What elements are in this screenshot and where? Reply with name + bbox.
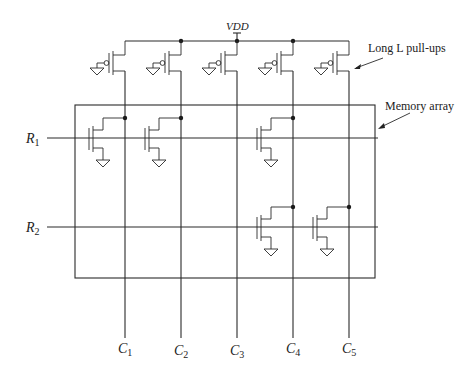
column-label-c4: C4 <box>286 341 300 358</box>
column-label-c3: C3 <box>230 343 244 360</box>
row1-cells <box>89 116 295 167</box>
column-lines <box>125 71 349 338</box>
cell-r1-c2 <box>145 116 183 167</box>
column-label-c5: C5 <box>342 341 356 358</box>
column-label-c1: C1 <box>118 341 132 358</box>
memory-array-schematic: VDD R1 R2 C1 C2 <box>0 0 473 372</box>
pullup-c3 <box>202 41 237 75</box>
pullup-c1 <box>90 41 125 75</box>
annotation-memory-array: Memory array <box>378 99 454 129</box>
pullup-transistors <box>90 41 349 75</box>
memory-array-arrow <box>381 113 410 127</box>
row-label-r1: R1 <box>25 131 40 148</box>
cell-r1-c4 <box>257 116 295 167</box>
row2-cells <box>257 205 351 256</box>
annotation-pullups: Long L pull-ups <box>354 41 446 69</box>
pullup-c5 <box>314 41 349 75</box>
pullup-c4 <box>258 41 293 75</box>
column-label-c2: C2 <box>174 343 188 360</box>
vdd-supply: VDD <box>125 20 349 43</box>
cell-r2-c4 <box>257 205 295 256</box>
vdd-label: VDD <box>226 20 249 32</box>
row-lines <box>47 138 378 227</box>
cell-r1-c1 <box>89 116 127 167</box>
memory-array-label: Memory array <box>385 99 454 113</box>
cell-r2-c5 <box>313 205 351 256</box>
pullups-label: Long L pull-ups <box>368 41 446 55</box>
row-label-r2: R2 <box>25 220 40 237</box>
memory-array-box <box>75 105 375 278</box>
column-labels: C1 C2 C3 C4 C5 <box>118 341 356 360</box>
pullup-c2 <box>146 41 181 75</box>
